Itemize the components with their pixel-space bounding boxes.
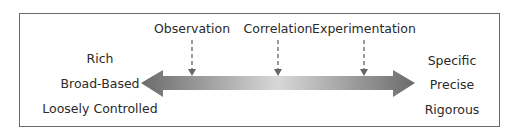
right-attr-rigorous: Rigorous <box>425 102 480 117</box>
method-experimentation: Experimentation <box>312 21 416 36</box>
dashed-pointers <box>192 40 364 70</box>
left-attr-rich: Rich <box>87 51 114 66</box>
pointer-arrowheads <box>188 69 368 76</box>
right-attr-specific: Specific <box>428 53 477 68</box>
left-attr-broad-based: Broad-Based <box>60 76 139 91</box>
method-correlation: Correlation <box>244 21 313 36</box>
left-attr-loosely-controlled: Loosely Controlled <box>42 101 157 116</box>
method-observation: Observation <box>154 21 230 36</box>
right-attr-precise: Precise <box>430 77 474 92</box>
